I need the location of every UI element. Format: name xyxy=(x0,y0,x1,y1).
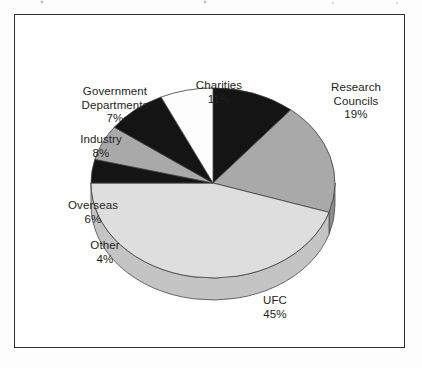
slice-label-ufc: UFC 45% xyxy=(225,294,325,321)
slice-label-research-councils: Research Councils 19% xyxy=(301,81,411,122)
slice-label-industry: Industry 8% xyxy=(49,133,153,160)
pie-chart xyxy=(15,15,406,349)
chart-frame: Charities 11% Research Councils 19% Gove… xyxy=(14,14,405,348)
slice-label-government-departments: Government Departments 7% xyxy=(53,85,177,126)
scan-artifact-top xyxy=(0,0,422,11)
slice-label-charities: Charities 11% xyxy=(167,79,271,106)
figure-container: Charities 11% Research Councils 19% Gove… xyxy=(0,0,422,368)
slice-label-other: Other 4% xyxy=(55,239,155,266)
slice-label-overseas: Overseas 6% xyxy=(43,199,143,226)
